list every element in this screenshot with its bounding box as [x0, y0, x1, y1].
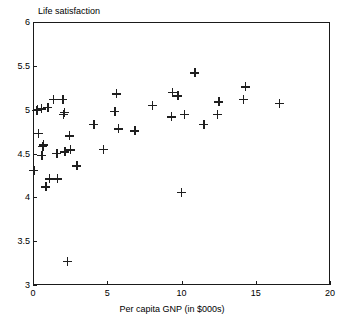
y-tick-mark	[33, 66, 37, 67]
data-point	[275, 99, 284, 108]
data-point	[29, 166, 38, 175]
data-point	[112, 89, 121, 98]
data-point	[63, 257, 72, 266]
data-point	[43, 103, 52, 112]
y-tick-mark	[33, 110, 37, 111]
y-tick-label: 6	[2, 17, 30, 27]
y-tick-label: 5.5	[2, 61, 30, 71]
x-tick-mark	[182, 281, 183, 285]
x-tick-mark	[33, 281, 34, 285]
y-axis-title: Life satisfaction	[38, 6, 100, 17]
data-point	[41, 182, 50, 191]
y-tick-label: 5	[2, 105, 30, 115]
x-tick-label: 10	[167, 288, 197, 298]
x-tick-mark	[256, 281, 257, 285]
x-tick-label: 5	[92, 288, 122, 298]
data-point	[37, 151, 46, 160]
y-tick-mark	[33, 197, 37, 198]
y-tick-mark	[33, 241, 37, 242]
data-point	[58, 95, 67, 104]
data-point	[89, 120, 98, 129]
y-tick-label: 4.5	[2, 149, 30, 159]
data-point	[49, 95, 58, 104]
data-point	[173, 91, 182, 100]
data-point	[213, 110, 222, 119]
plot-area	[33, 22, 330, 285]
y-tick-mark	[33, 154, 37, 155]
data-point	[114, 124, 123, 133]
data-point	[39, 140, 48, 149]
data-point	[241, 82, 250, 91]
x-axis-title: Per capita GNP (in $000s)	[0, 304, 344, 315]
data-point	[167, 112, 176, 121]
data-point	[53, 174, 62, 183]
data-point	[60, 108, 69, 117]
data-point	[99, 145, 108, 154]
data-point	[66, 145, 75, 154]
data-point	[177, 188, 186, 197]
y-tick-mark	[33, 285, 37, 286]
data-point	[199, 120, 208, 129]
data-point	[190, 68, 199, 77]
data-point	[130, 126, 139, 135]
data-point	[110, 107, 119, 116]
x-tick-label: 15	[241, 288, 271, 298]
x-tick-label: 20	[315, 288, 344, 298]
y-tick-mark	[33, 22, 37, 23]
data-point	[72, 161, 81, 170]
x-tick-mark	[330, 281, 331, 285]
x-tick-mark	[107, 281, 108, 285]
x-tick-label: 0	[18, 288, 48, 298]
scatter-chart-figure: Life satisfaction 33.544.555.56 05101520…	[0, 0, 344, 327]
data-point	[214, 97, 223, 106]
data-point	[148, 101, 157, 110]
data-point	[34, 129, 43, 138]
y-tick-label: 3.5	[2, 236, 30, 246]
data-point	[180, 110, 189, 119]
data-point	[239, 95, 248, 104]
y-tick-label: 4	[2, 192, 30, 202]
data-point	[65, 131, 74, 140]
